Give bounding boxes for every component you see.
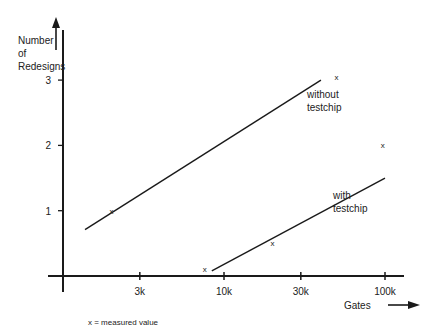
series-with-testchip: xxxwithtestchip [203,141,385,274]
labels: NumberofRedesignsGatesx = measured value [18,35,371,327]
data-point-marker: x [109,207,113,216]
ticks: 3k10k30k100k123 [45,75,396,297]
x-axis-label: Gates [344,300,371,311]
y-axis-label: of [18,48,27,59]
data-point-marker: x [335,73,339,82]
data-point-marker: x [381,141,385,150]
series-label: testchip [333,203,368,214]
data-point-marker: x [203,265,207,274]
axes [48,17,420,309]
x-tick-label: 3k [135,286,147,297]
legend-note: x = measured value [88,318,159,327]
series-label: testchip [307,102,342,113]
trend-line [212,178,385,271]
series-label: with [332,190,351,201]
chart: 3k10k30k100k123 xxwithouttestchipxxxwith… [0,0,439,336]
series-layer: xxwithouttestchipxxxwithtestchip [85,73,385,275]
x-tick-label: 10k [216,286,233,297]
data-point-marker: x [270,239,274,248]
y-axis-label: Redesigns [18,61,65,72]
x-tick-label: 30k [293,286,310,297]
y-tick-label: 1 [45,206,51,217]
series-without-testchip: xxwithouttestchip [85,73,342,230]
x-tick-label: 100k [374,286,397,297]
y-tick-label: 3 [45,75,51,86]
y-axis-label: Number [18,35,54,46]
y-axis-arrow-head [52,17,60,28]
x-axis-arrow-head [408,301,420,309]
y-tick-label: 2 [45,140,51,151]
series-label: without [306,89,339,100]
trend-line [85,80,321,230]
